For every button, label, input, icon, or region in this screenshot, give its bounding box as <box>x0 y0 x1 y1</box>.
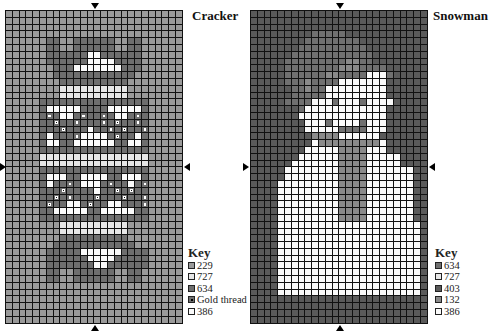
stitch-cell <box>380 290 386 296</box>
stitch-cell <box>128 181 134 187</box>
center-marker-right <box>184 163 190 171</box>
stitch-cell <box>258 31 264 37</box>
stitch-cell <box>421 59 427 65</box>
stitch-cell <box>305 229 311 235</box>
stitch-cell <box>333 120 339 126</box>
stitch-cell <box>414 45 420 51</box>
stitch-cell <box>6 174 12 180</box>
stitch-cell <box>115 269 121 275</box>
stitch-cell <box>162 120 168 126</box>
stitch-cell <box>373 201 379 207</box>
stitch-cell <box>278 208 284 214</box>
stitch-cell <box>169 188 175 194</box>
stitch-cell <box>81 133 87 139</box>
stitch-cell <box>101 79 107 85</box>
stitch-cell <box>47 188 53 194</box>
stitch-cell <box>319 174 325 180</box>
stitch-cell <box>6 256 12 262</box>
stitch-cell <box>6 215 12 221</box>
stitch-cell <box>40 18 46 24</box>
stitch-cell <box>346 11 352 17</box>
stitch-cell <box>305 235 311 241</box>
stitch-cell <box>142 147 148 153</box>
stitch-cell <box>40 317 46 323</box>
stitch-cell <box>94 215 100 221</box>
stitch-cell <box>54 249 60 255</box>
stitch-cell <box>20 167 26 173</box>
stitch-cell <box>346 269 352 275</box>
stitch-cell <box>258 147 264 153</box>
stitch-cell <box>122 256 128 262</box>
stitch-cell <box>299 11 305 17</box>
stitch-cell <box>20 25 26 31</box>
stitch-cell <box>20 113 26 119</box>
stitch-cell <box>346 181 352 187</box>
stitch-cell <box>401 201 407 207</box>
stitch-cell <box>380 181 386 187</box>
stitch-cell <box>60 201 66 207</box>
stitch-cell <box>326 167 332 173</box>
stitch-cell <box>81 79 87 85</box>
stitch-cell <box>360 147 366 153</box>
stitch-cell <box>162 86 168 92</box>
stitch-cell <box>115 283 121 289</box>
key-title: Key <box>435 247 460 259</box>
stitch-cell <box>142 242 148 248</box>
stitch-cell <box>47 317 53 323</box>
stitch-cell <box>26 290 32 296</box>
stitch-cell <box>278 256 284 262</box>
stitch-cell <box>26 133 32 139</box>
stitch-cell <box>305 283 311 289</box>
stitch-cell <box>394 106 400 112</box>
stitch-cell <box>407 229 413 235</box>
stitch-cell <box>278 147 284 153</box>
stitch-cell <box>312 154 318 160</box>
stitch-cell <box>346 235 352 241</box>
stitch-cell <box>162 256 168 262</box>
stitch-cell <box>339 18 345 24</box>
stitch-cell <box>326 269 332 275</box>
stitch-cell <box>394 201 400 207</box>
stitch-cell <box>33 38 39 44</box>
stitch-cell <box>47 283 53 289</box>
stitch-cell <box>333 79 339 85</box>
stitch-cell <box>292 154 298 160</box>
stitch-cell <box>135 154 141 160</box>
stitch-cell <box>271 310 277 316</box>
stitch-cell <box>33 188 39 194</box>
stitch-cell <box>169 249 175 255</box>
stitch-cell <box>13 38 19 44</box>
stitch-cell <box>149 93 155 99</box>
stitch-cell <box>353 38 359 44</box>
stitch-cell <box>339 133 345 139</box>
stitch-cell <box>60 93 66 99</box>
stitch-cell <box>414 256 420 262</box>
stitch-cell <box>47 147 53 153</box>
stitch-cell <box>278 262 284 268</box>
stitch-cell <box>407 93 413 99</box>
stitch-cell <box>271 195 277 201</box>
stitch-cell <box>305 290 311 296</box>
stitch-cell <box>265 283 271 289</box>
stitch-cell <box>353 127 359 133</box>
stitch-cell <box>353 106 359 112</box>
stitch-cell <box>128 269 134 275</box>
stitch-cell <box>258 303 264 309</box>
key-label: 386 <box>197 306 213 318</box>
stitch-cell <box>13 276 19 282</box>
stitch-cell <box>40 188 46 194</box>
stitch-cell <box>156 99 162 105</box>
stitch-cell <box>156 235 162 241</box>
stitch-cell <box>360 11 366 17</box>
stitch-cell <box>60 188 66 194</box>
stitch-cell <box>346 93 352 99</box>
stitch-cell <box>67 133 73 139</box>
stitch-cell <box>40 45 46 51</box>
stitch-cell <box>380 188 386 194</box>
stitch-cell <box>20 262 26 268</box>
stitch-cell <box>312 79 318 85</box>
stitch-cell <box>265 215 271 221</box>
stitch-cell <box>271 215 277 221</box>
stitch-cell <box>387 79 393 85</box>
stitch-cell <box>6 276 12 282</box>
